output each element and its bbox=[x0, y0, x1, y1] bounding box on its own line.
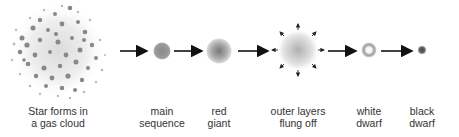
white-dwarf-star-icon bbox=[362, 43, 377, 58]
outer-layers-star-icon bbox=[272, 24, 324, 76]
label-line-1: red bbox=[174, 105, 264, 117]
black-dwarf-star-icon bbox=[418, 46, 426, 54]
gas-cloud-icon bbox=[10, 2, 106, 99]
stage-label-red-giant: red giant bbox=[174, 105, 264, 129]
label-line-2: dwarf bbox=[377, 117, 459, 129]
red-giant-star-icon bbox=[207, 39, 232, 64]
main-sequence-star-icon bbox=[154, 43, 171, 60]
label-line-2: a gas cloud bbox=[13, 117, 103, 129]
label-line-1: black bbox=[377, 105, 459, 117]
stage-label-black-dwarf: black dwarf bbox=[377, 105, 459, 129]
label-line-1: Star forms in bbox=[13, 105, 103, 117]
stage-label-gas-cloud: Star forms in a gas cloud bbox=[13, 105, 103, 129]
label-line-2: giant bbox=[174, 117, 264, 129]
